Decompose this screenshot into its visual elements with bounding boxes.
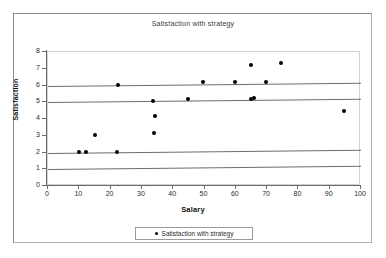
- x-tick-label: 70: [255, 190, 277, 197]
- y-tick-label: 5: [22, 97, 40, 104]
- x-tick-label: 30: [130, 190, 152, 197]
- y-tick: [42, 135, 47, 136]
- y-tick-label: 3: [22, 131, 40, 138]
- y-tick-label: 6: [22, 81, 40, 88]
- x-tick-label: 40: [161, 190, 183, 197]
- x-tick: [329, 185, 330, 189]
- data-point: [151, 99, 155, 103]
- y-tick: [42, 101, 47, 102]
- data-point: [93, 133, 97, 137]
- y-tick-label: 2: [22, 148, 40, 155]
- chart-legend: Satisfaction with strategy: [135, 227, 253, 240]
- y-tick-label: 7: [22, 64, 40, 71]
- data-point: [264, 80, 268, 84]
- y-tick-label: 4: [22, 114, 40, 121]
- x-tick: [360, 185, 361, 189]
- y-tick-label: 1: [22, 164, 40, 171]
- data-point: [84, 150, 88, 154]
- x-tick-label: 90: [318, 190, 340, 197]
- y-tick: [42, 168, 47, 169]
- y-tick: [42, 118, 47, 119]
- x-tick-label: 80: [286, 190, 308, 197]
- plot-area: [47, 51, 360, 185]
- legend-marker-icon: [155, 232, 158, 235]
- x-tick: [110, 185, 111, 189]
- x-tick: [297, 185, 298, 189]
- grid-line: [48, 99, 361, 103]
- x-tick-label: 10: [67, 190, 89, 197]
- x-tick: [78, 185, 79, 189]
- x-tick-label: 100: [349, 190, 371, 197]
- data-point: [342, 109, 346, 113]
- x-tick-label: 60: [224, 190, 246, 197]
- x-tick: [266, 185, 267, 189]
- y-tick: [42, 85, 47, 86]
- x-tick: [47, 185, 48, 189]
- grid-line: [48, 166, 361, 170]
- x-tick-label: 0: [36, 190, 58, 197]
- data-point: [152, 131, 156, 135]
- data-point: [249, 63, 253, 67]
- x-axis-label: Salary: [0, 205, 386, 214]
- grid-line: [48, 149, 361, 153]
- x-tick-label: 50: [193, 190, 215, 197]
- y-tick-label: 0: [22, 181, 40, 188]
- y-axis-label: Satisfaction: [12, 70, 19, 130]
- x-tick-label: 20: [99, 190, 121, 197]
- chart-title: Satisfaction with strategy: [0, 20, 386, 27]
- y-tick: [42, 68, 47, 69]
- data-point: [153, 114, 157, 118]
- x-tick: [141, 185, 142, 189]
- y-tick-label: 8: [22, 47, 40, 54]
- chart-screenshot: Satisfaction with strategy 012345678 010…: [0, 0, 386, 258]
- x-tick: [235, 185, 236, 189]
- x-tick: [204, 185, 205, 189]
- y-tick: [42, 51, 47, 52]
- data-point: [279, 61, 283, 65]
- legend-label: Satisfaction with strategy: [162, 230, 234, 237]
- data-point: [233, 80, 237, 84]
- y-tick: [42, 152, 47, 153]
- x-tick: [172, 185, 173, 189]
